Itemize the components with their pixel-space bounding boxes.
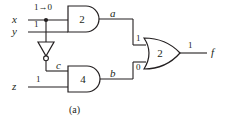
or-input-top-value: 1 <box>136 34 141 43</box>
input-label-x: x <box>12 14 17 25</box>
and-gate-2-number: 2 <box>74 14 90 25</box>
input-value-x: 1→0 <box>34 3 52 12</box>
input-value-y: 1 <box>34 20 39 29</box>
input-value-z: 1 <box>36 75 41 84</box>
junction-dot-x <box>44 18 48 22</box>
output-label-f: f <box>211 47 214 58</box>
net-label-b: b <box>110 68 116 79</box>
inverter-triangle <box>38 42 54 56</box>
input-label-y: y <box>12 26 17 37</box>
net-label-a: a <box>110 8 116 19</box>
and-gate-4-number: 4 <box>75 74 91 85</box>
output-value-f: 1 <box>188 41 193 50</box>
figure-caption: (a) <box>69 104 80 115</box>
inverter-bubble-icon <box>44 56 49 61</box>
logic-circuit-figure: x 1→0 y 1 z 1 2 4 2 a b c 1 0 1 f (a) <box>0 0 225 123</box>
net-label-c: c <box>56 60 61 71</box>
or-gate-2-number: 2 <box>152 48 168 59</box>
or-input-bottom-value: 0 <box>136 63 141 72</box>
input-label-z: z <box>12 81 16 92</box>
